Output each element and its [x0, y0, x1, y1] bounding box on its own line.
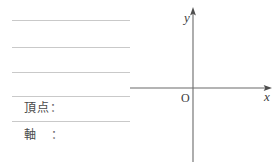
- y-axis-label: y: [184, 11, 190, 24]
- axis-label-colon: ：: [51, 128, 64, 142]
- worksheet-canvas: 頂点： 軸： y x O: [0, 0, 275, 162]
- blank-line-1[interactable]: [12, 20, 130, 21]
- vertex-label-colon: ：: [50, 101, 63, 115]
- blank-line-2[interactable]: [12, 47, 130, 48]
- coordinate-axes-svg: [125, 0, 275, 162]
- vertex-label-text: 頂点: [24, 101, 49, 115]
- blank-line-3[interactable]: [12, 72, 130, 73]
- origin-label: O: [181, 92, 190, 104]
- x-axis-label: x: [264, 90, 270, 103]
- coordinate-plane: y x O: [125, 0, 275, 162]
- blank-line-5[interactable]: [12, 121, 130, 122]
- axis-field-label: 軸：: [24, 128, 63, 142]
- vertex-field-label: 頂点：: [24, 101, 63, 115]
- axis-label-text: 軸: [24, 128, 37, 142]
- blank-line-4[interactable]: [12, 96, 130, 97]
